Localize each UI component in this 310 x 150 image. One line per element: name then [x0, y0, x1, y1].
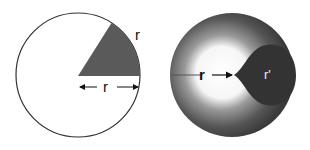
radian-circle-diagram: r r	[16, 13, 140, 137]
diagram-canvas: r r r r'	[0, 0, 310, 150]
shaded-sphere-diagram: r r'	[170, 13, 296, 137]
arc-length-label: r	[135, 26, 140, 43]
inner-radius-label: r'	[264, 67, 271, 82]
radius-label: r	[103, 78, 108, 95]
outer-radius-label: r	[199, 66, 205, 83]
